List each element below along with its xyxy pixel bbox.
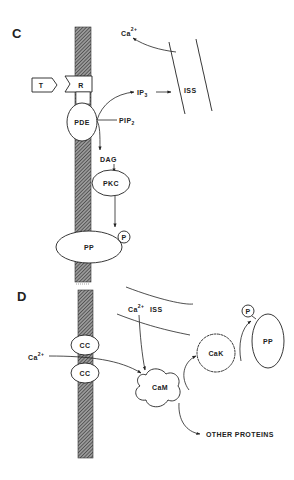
panel-label-d: D <box>17 289 26 304</box>
panel-c: C T R PDE PIP2 IP3 <box>12 26 212 282</box>
arrow-pip2-dag <box>97 121 100 150</box>
node-pkc: PKC <box>92 170 130 196</box>
membrane-gap <box>76 92 90 104</box>
label-dag: DAG <box>100 156 117 163</box>
node-pp-c: PP <box>56 231 122 263</box>
arrow-pip2-ip3 <box>97 92 134 120</box>
svg-text:CC: CC <box>80 370 91 377</box>
node-t: T <box>32 78 57 92</box>
node-cc-upper: CC <box>71 335 99 355</box>
svg-text:R: R <box>78 82 83 89</box>
iss-membrane-left <box>169 42 185 114</box>
svg-text:PKC: PKC <box>103 180 119 187</box>
iss-membrane-d-upper <box>126 287 193 304</box>
node-cc-lower: CC <box>71 363 99 383</box>
iss-membrane-right <box>196 39 212 111</box>
label-ca-c: Ca2+ <box>121 26 137 37</box>
node-cam: CaM <box>136 369 180 407</box>
svg-text:PDE: PDE <box>74 119 90 126</box>
node-phosphate-d: P <box>242 305 254 317</box>
svg-text:P: P <box>121 234 126 241</box>
node-pp-d: PP <box>252 314 284 368</box>
node-cak: CaK <box>197 334 235 372</box>
label-ca-iss: Ca2+ <box>128 303 144 313</box>
panel-d: D CC CC Ca2+ ISS Ca2+ CaM <box>17 287 284 458</box>
arrow-cam-other <box>179 403 200 434</box>
label-other-proteins: OTHER PROTEINS <box>206 431 274 438</box>
label-ip3: IP3 <box>137 89 148 98</box>
node-phosphate-c: P <box>118 231 130 243</box>
signaling-diagram: C T R PDE PIP2 IP3 <box>0 0 294 480</box>
label-pip2: PIP2 <box>119 117 135 126</box>
label-ca-ext: Ca2+ <box>28 351 44 361</box>
label-iss-d: ISS <box>150 306 162 313</box>
svg-text:CC: CC <box>80 342 91 349</box>
svg-text:P: P <box>245 308 250 315</box>
svg-text:PP: PP <box>84 244 94 251</box>
arrow-cak-pp <box>240 321 251 361</box>
svg-text:CaM: CaM <box>152 384 168 391</box>
arrow-cam-cak <box>184 356 196 390</box>
node-r: R <box>65 76 92 92</box>
label-iss-c: ISS <box>184 87 196 94</box>
svg-text:PP: PP <box>263 338 273 345</box>
node-pde: PDE <box>67 103 97 141</box>
svg-text:T: T <box>39 82 44 89</box>
iss-membrane-d-lower <box>117 314 190 335</box>
panel-label-c: C <box>12 26 22 41</box>
svg-text:CaK: CaK <box>208 350 223 357</box>
